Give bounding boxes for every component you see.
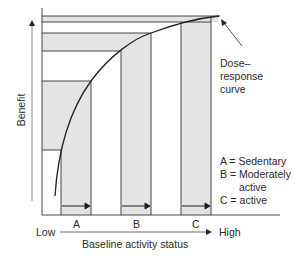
curve-label-line-1: Dose– xyxy=(220,57,250,69)
legend-b-cont: active xyxy=(239,181,266,193)
legend-c: C = active xyxy=(220,194,267,206)
legend-b: B = Moderately xyxy=(220,168,291,180)
curve-pointer-arrow xyxy=(221,19,242,46)
bar-b xyxy=(121,33,151,215)
curve-label-line-2: response xyxy=(220,70,263,82)
bar-c xyxy=(181,16,211,215)
benefit-axis-arrow xyxy=(29,20,35,201)
x-axis-title: Baseline activity status xyxy=(82,238,188,250)
bar-label-a: A xyxy=(73,218,80,230)
y-axis-label: Benefit xyxy=(15,93,27,127)
legend-a: A = Sedentary xyxy=(220,155,286,167)
bar-label-c: C xyxy=(192,218,200,230)
bar-label-b: B xyxy=(133,218,140,230)
curve-label-line-3: curve xyxy=(220,83,246,95)
x-axis-high-label: High xyxy=(219,226,241,238)
bar-a xyxy=(61,81,91,215)
x-axis-low-label: Low xyxy=(36,226,55,238)
dose-response-diagram xyxy=(0,0,301,263)
